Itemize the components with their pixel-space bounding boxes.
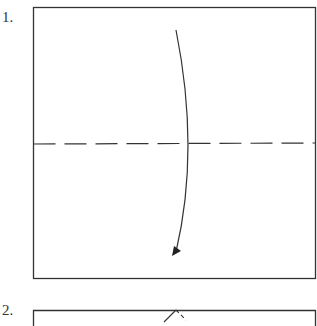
step-2-paper-square — [34, 311, 316, 326]
fold-arrow-curve — [176, 30, 188, 252]
step-2-dashed-edge — [176, 310, 186, 320]
valley-fold-line — [34, 143, 316, 144]
origami-diagram — [0, 0, 317, 326]
step-2-solid-edge — [164, 310, 176, 322]
